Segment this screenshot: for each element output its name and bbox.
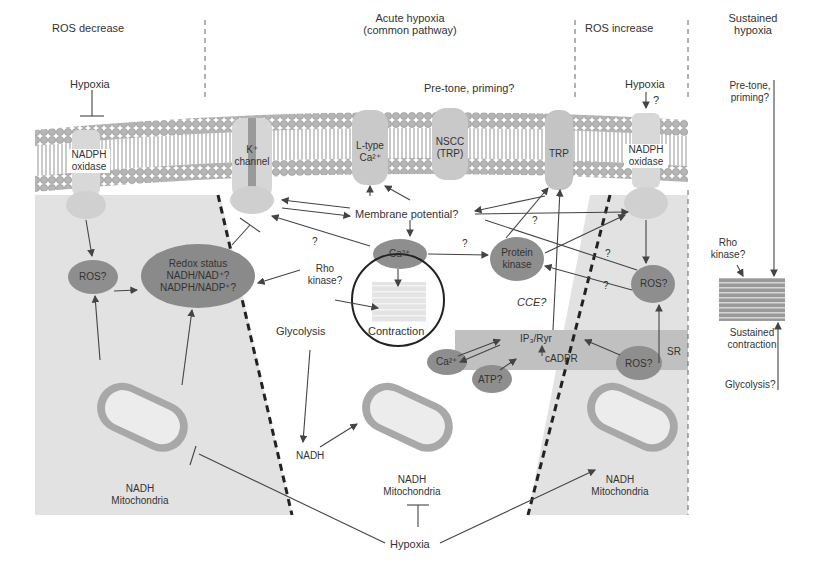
mito-center-label: NADH Mitochondria [377, 474, 447, 498]
ca-sr-label: Ca²⁺ [436, 356, 457, 368]
acute-hypoxia-line2: (common pathway) [335, 24, 485, 36]
sustained-rho-line1: Rho [708, 237, 748, 249]
cadpr-label: cADPR [545, 353, 578, 365]
nscc-line2: (TRP) [430, 148, 470, 160]
ros-decrease-heading: ROS decrease [52, 22, 124, 34]
mitochondrion-center [354, 374, 461, 459]
nadh-label: NADH [296, 450, 324, 462]
ros-increase-heading: ROS increase [585, 22, 653, 34]
membrane-potential-label: Membrane potential? [355, 208, 458, 220]
redox-line2: NADH/NAD⁺? [145, 270, 251, 282]
k-channel-label: K⁺ channel [230, 144, 274, 168]
mito-right-line2: Mitochondria [585, 486, 655, 498]
nadph-left-line1: NADPH [68, 149, 110, 161]
nadph-oxidase-left-label: NADPH oxidase [68, 149, 110, 173]
acute-hypoxia-heading: Acute hypoxia (common pathway) [335, 12, 485, 36]
pretone-right-line2: priming? [722, 92, 778, 104]
cce-label: CCE? [517, 296, 546, 308]
ros-decrease-region [35, 195, 292, 515]
hypoxia-bottom-label: Hypoxia [390, 538, 430, 550]
nadph-right-line2: oxidase [624, 156, 668, 168]
sustained-contraction-line2: contraction [717, 339, 787, 351]
sr-label: SR [667, 346, 681, 358]
question-mark-5: ? [603, 280, 609, 292]
rho-kinase-label: Rho kinase? [305, 263, 345, 287]
rho-kinase-line1: Rho [305, 263, 345, 275]
ros-sr-label: ROS? [625, 358, 652, 370]
mito-right-label: NADH Mitochondria [585, 474, 655, 498]
mito-right-line1: NADH [585, 474, 655, 486]
trp-label: TRP [547, 148, 571, 160]
nadph-oxidase-left [66, 130, 106, 219]
nadph-oxidase-right-label: NADPH oxidase [624, 144, 668, 168]
pretone-right-label: Pre-tone, priming? [722, 80, 778, 104]
nadph-right-line1: NADPH [624, 144, 668, 156]
redox-status-label: Redox status NADH/NAD⁺? NADPH/NADP⁺? [145, 258, 251, 294]
sustained-rho-line2: kinase? [708, 249, 748, 261]
pretone-center-label: Pre-tone, priming? [424, 82, 515, 94]
redox-line1: Redox status [145, 258, 251, 270]
l-type-ca-label: L-type Ca²⁺ [350, 140, 390, 164]
sustained-hypoxia-line1: Sustained [718, 12, 788, 24]
sustained-contraction-label: Sustained contraction [717, 327, 787, 351]
k-channel-line1: K⁺ [230, 144, 274, 156]
protein-kinase-line1: Protein [495, 247, 539, 259]
mito-left-label: NADH Mitochondria [105, 483, 175, 507]
mito-left-line1: NADH [105, 483, 175, 495]
glycolysis-label: Glycolysis [276, 325, 326, 337]
hypoxia-right-label: Hypoxia [625, 78, 665, 90]
redox-line3: NADPH/NADP⁺? [145, 282, 251, 294]
l-type-line1: L-type [350, 140, 390, 152]
contraction-fibers [372, 282, 426, 322]
question-mark-2: ? [462, 238, 468, 250]
nscc-trp-label: NSCC (TRP) [430, 136, 470, 160]
mito-center-line2: Mitochondria [377, 486, 447, 498]
protein-kinase-label: Protein kinase [495, 247, 539, 271]
ca-label: Ca²⁺ [389, 248, 410, 260]
sustained-contraction-line1: Sustained [717, 327, 787, 339]
sustained-contraction-node [719, 278, 785, 321]
acute-hypoxia-line1: Acute hypoxia [335, 12, 485, 24]
ip3-ryr-label: IP₃/Ryr [520, 333, 552, 345]
atp-label: ATP? [478, 374, 502, 386]
sustained-hypoxia-line2: hypoxia [718, 24, 788, 36]
pretone-right-line1: Pre-tone, [722, 80, 778, 92]
question-mark-3: ? [532, 215, 538, 227]
mito-center-line1: NADH [377, 474, 447, 486]
rho-kinase-line2: kinase? [305, 275, 345, 287]
mito-left-line2: Mitochondria [105, 495, 175, 507]
contraction-label: Contraction [368, 325, 424, 337]
sustained-rho-kinase-label: Rho kinase? [708, 237, 748, 261]
hypoxia-left-label: Hypoxia [70, 78, 110, 90]
protein-kinase-line2: kinase [495, 259, 539, 271]
l-type-line2: Ca²⁺ [350, 152, 390, 164]
sustained-hypoxia-heading: Sustained hypoxia [718, 12, 788, 36]
sustained-glycolysis-label: Glycolysis? [725, 379, 776, 391]
question-mark-4: ? [605, 248, 611, 260]
k-channel-line2: channel [230, 156, 274, 168]
ros-right-label: ROS? [640, 278, 667, 290]
nscc-line1: NSCC [430, 136, 470, 148]
hypoxia-right-question: ? [653, 94, 659, 106]
question-mark-1: ? [312, 236, 318, 248]
nadph-left-line2: oxidase [68, 161, 110, 173]
ros-left-label: ROS? [79, 271, 106, 283]
